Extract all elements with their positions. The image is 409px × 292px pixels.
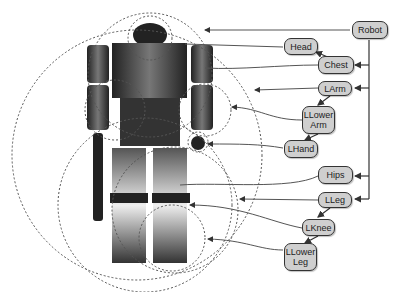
node-robot[interactable]: Robot bbox=[352, 21, 388, 39]
node-larm[interactable]: LArm bbox=[318, 81, 352, 96]
node-label: LLeg bbox=[325, 195, 345, 205]
node-label: Head bbox=[290, 42, 312, 52]
diagram-canvas bbox=[0, 0, 409, 292]
node-lhand[interactable]: LHand bbox=[284, 140, 318, 158]
node-chest[interactable]: Chest bbox=[318, 56, 354, 74]
node-label: Hips bbox=[326, 170, 344, 180]
node-label: LKnee bbox=[305, 223, 331, 233]
node-head[interactable]: Head bbox=[284, 38, 318, 55]
node-hips[interactable]: Hips bbox=[318, 166, 353, 184]
node-label: LHand bbox=[288, 144, 315, 154]
node-label: LLower Leg bbox=[285, 247, 316, 267]
robot-figure bbox=[87, 23, 213, 263]
node-label: LLower Arm bbox=[303, 110, 334, 130]
node-llowerleg[interactable]: LLower Leg bbox=[284, 243, 317, 271]
node-lknee[interactable]: LKnee bbox=[302, 219, 335, 236]
node-lleg[interactable]: LLeg bbox=[318, 192, 352, 208]
node-llowerarm[interactable]: LLower Arm bbox=[302, 106, 335, 134]
node-label: LArm bbox=[324, 84, 346, 94]
node-label: Robot bbox=[358, 25, 382, 35]
node-label: Chest bbox=[324, 60, 348, 70]
